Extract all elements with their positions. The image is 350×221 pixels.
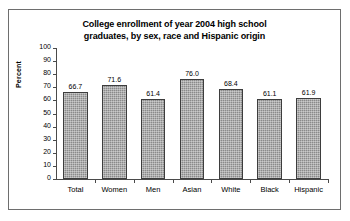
y-tick-label: 70 xyxy=(29,82,51,89)
y-tick-label: 50 xyxy=(29,109,51,116)
x-tick-mark xyxy=(173,179,174,183)
x-tick-mark xyxy=(289,179,290,183)
bar-group: 61.4Men xyxy=(141,48,165,179)
chart-container: College enrollment of year 2004 high sch… xyxy=(8,9,341,210)
bar xyxy=(257,99,281,179)
x-tick-mark xyxy=(134,179,135,183)
y-tick-label: 10 xyxy=(29,161,51,168)
x-tick-label: Men xyxy=(146,185,161,194)
y-tick-mark xyxy=(53,153,57,154)
y-tick-mark xyxy=(53,87,57,88)
y-tick-label: 100 xyxy=(29,43,51,50)
chart-title-line-1: College enrollment of year 2004 high sch… xyxy=(9,18,340,30)
y-axis-label: Percent xyxy=(15,61,22,88)
y-tick-mark xyxy=(53,74,57,75)
x-tick-mark xyxy=(328,179,329,183)
y-tick-mark xyxy=(53,140,57,141)
bar-value-label: 76.0 xyxy=(185,70,199,77)
x-axis-line xyxy=(56,179,328,180)
x-tick-label: Women xyxy=(101,185,127,194)
x-tick-mark xyxy=(95,179,96,183)
bar-value-label: 71.6 xyxy=(107,76,121,83)
plot-area: 1009080706050403020100 66.7Total71.6Wome… xyxy=(56,48,328,179)
bar-group: 71.6Women xyxy=(102,48,126,179)
bar-group: 66.7Total xyxy=(63,48,87,179)
y-tick-mark xyxy=(53,61,57,62)
bar-value-label: 68.4 xyxy=(224,80,238,87)
bar-value-label: 66.7 xyxy=(69,83,83,90)
x-tick-label: Total xyxy=(68,185,84,194)
y-tick-mark xyxy=(53,100,57,101)
y-tick-label: 30 xyxy=(29,135,51,142)
chart-title: College enrollment of year 2004 high sch… xyxy=(9,18,340,42)
x-tick-label: Hispanic xyxy=(294,185,323,194)
bar xyxy=(180,79,204,179)
x-tick-label: White xyxy=(221,185,240,194)
y-tick-label: 80 xyxy=(29,69,51,76)
y-tick-mark xyxy=(53,48,57,49)
y-tick-label: 40 xyxy=(29,122,51,129)
bar-group: 76.0Asian xyxy=(180,48,204,179)
bar xyxy=(296,98,320,179)
bar-group: 61.9Hispanic xyxy=(296,48,320,179)
bar-group: 68.4White xyxy=(219,48,243,179)
x-tick-label: Asian xyxy=(183,185,202,194)
bar xyxy=(63,92,87,179)
y-tick-mark xyxy=(53,127,57,128)
bar-value-label: 61.9 xyxy=(302,89,316,96)
y-tick-label: 60 xyxy=(29,95,51,102)
y-tick-label: 0 xyxy=(29,174,51,181)
y-tick-label: 20 xyxy=(29,148,51,155)
bar xyxy=(141,99,165,179)
y-tick-mark xyxy=(53,114,57,115)
x-tick-mark xyxy=(211,179,212,183)
bar-value-label: 61.4 xyxy=(146,90,160,97)
bar-group: 61.1Black xyxy=(257,48,281,179)
bar xyxy=(102,85,126,179)
x-tick-label: Black xyxy=(261,185,279,194)
y-tick-mark xyxy=(53,179,57,180)
y-tick-label: 90 xyxy=(29,56,51,63)
bar xyxy=(219,89,243,179)
bar-value-label: 61.1 xyxy=(263,90,277,97)
y-tick-mark xyxy=(53,166,57,167)
chart-title-line-2: graduates, by sex, race and Hispanic ori… xyxy=(9,30,340,42)
x-tick-mark xyxy=(250,179,251,183)
